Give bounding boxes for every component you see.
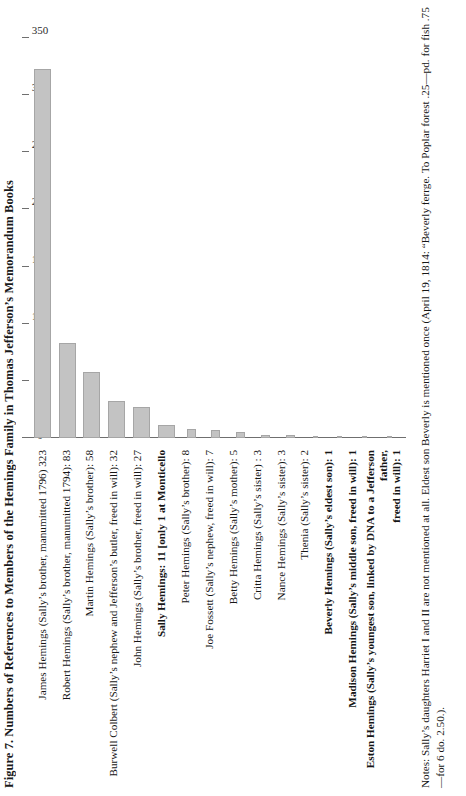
- category-label: Martin Hemings (Sally’s brother): 58: [78, 444, 102, 796]
- bar-row: [80, 38, 105, 438]
- category-label: Sally Hemings: 11 [only 1 at Monticello: [149, 444, 173, 796]
- category-label: James Hemings (Sally’s brother, manumitt…: [30, 444, 54, 796]
- tick-mark: [22, 437, 29, 438]
- bar-rows: [30, 38, 402, 438]
- category-label: Beverly Hemings (Sally’s eldest son): 1: [317, 444, 341, 796]
- category-label: Joe Fossett (Sally’s nephew, freed in wi…: [197, 444, 221, 796]
- bar: [158, 425, 175, 438]
- category-label: Nance Hemings (Sally’s sister): 3: [269, 444, 293, 796]
- bar: [108, 401, 125, 438]
- bar-row: [204, 38, 229, 438]
- category-label: Betty Hemings (Sally’s mother): 5: [221, 444, 245, 796]
- category-label: Eston Hemings (Sally’s youngest son, lin…: [364, 444, 402, 796]
- figure-rotation-wrapper: Figure 7. Numbers of References to Membe…: [0, 0, 466, 796]
- bar-row: [179, 38, 204, 438]
- tick-mark: [22, 37, 29, 38]
- bar-row: [303, 38, 328, 438]
- bar: [211, 430, 220, 438]
- bar-row: [154, 38, 179, 438]
- bar-row: [253, 38, 278, 438]
- bar: [83, 372, 100, 438]
- category-label: Madison Hemings (Sally’s middle son, fre…: [341, 444, 365, 796]
- bar: [34, 69, 51, 438]
- tick-mark: [22, 380, 29, 381]
- tick-mark: [22, 266, 29, 267]
- category-label: Critta Hemings (Sally’s sister) : 3: [245, 444, 269, 796]
- category-label: Robert Hemings (Sally’s brother, manumit…: [54, 444, 78, 796]
- bar: [387, 436, 392, 438]
- bar: [286, 435, 295, 438]
- category-label: Thenia (Sally’s sister): 2: [293, 444, 317, 796]
- figure-notes: Notes: Sally’s daughters Harriet I and I…: [418, 6, 447, 788]
- bar-row: [55, 38, 80, 438]
- bar: [362, 436, 367, 438]
- bar-row: [328, 38, 353, 438]
- category-label-column: James Hemings (Sally’s brother, manumitt…: [30, 444, 402, 796]
- bar: [313, 436, 318, 438]
- tick-mark: [22, 208, 29, 209]
- bar-row: [278, 38, 303, 438]
- bar: [187, 429, 196, 438]
- category-label: Burwell Colbert (Sally’s nephew and Jeff…: [102, 444, 126, 796]
- tick-mark: [22, 151, 29, 152]
- bar-row: [352, 38, 377, 438]
- bar-row: [377, 38, 402, 438]
- tick-mark: [22, 94, 29, 95]
- bar-row: [129, 38, 154, 438]
- bar: [133, 407, 150, 438]
- bar: [337, 436, 342, 438]
- category-label: John Hemings (Sally’s brother, freed in …: [126, 444, 150, 796]
- bar-row: [30, 38, 55, 438]
- bar-row: [228, 38, 253, 438]
- figure-title: Figure 7. Numbers of References to Membe…: [2, 4, 16, 788]
- category-label: Peter Hemings (Sally’s brother): 8: [173, 444, 197, 796]
- bar: [261, 435, 270, 438]
- figure-7-bar-chart: Figure 7. Numbers of References to Membe…: [0, 0, 466, 796]
- plot-area: 050100150200250300350: [30, 38, 402, 438]
- bar-row: [104, 38, 129, 438]
- tick-mark: [22, 323, 29, 324]
- bar: [59, 343, 76, 438]
- bar: [236, 432, 245, 438]
